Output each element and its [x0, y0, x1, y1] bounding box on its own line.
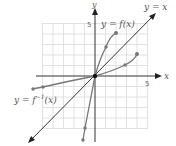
axes [36, 12, 158, 142]
f-label: y = f(x) [100, 19, 135, 29]
y-axis-label: y [91, 0, 97, 9]
f-inverse-label-prefix: y = f [13, 95, 37, 105]
y-axis-arrow-icon [92, 8, 98, 15]
f-inverse-label-sup: −1 [36, 93, 45, 100]
x-axis-arrow-icon [155, 73, 162, 79]
identity-label: y = x [143, 2, 167, 12]
x-tick-label-5: 5 [145, 80, 149, 88]
f-inverse-label-suffix: (x) [45, 95, 58, 105]
origin-point [93, 74, 97, 78]
inverse-function-graph: y x 5 5 y = x y = f(x) y = f−1(x) [0, 0, 176, 146]
f-inverse-label: y = f−1(x) [13, 93, 57, 105]
y-tick-label-5: 5 [87, 21, 91, 29]
x-axis-label: x [164, 71, 169, 81]
